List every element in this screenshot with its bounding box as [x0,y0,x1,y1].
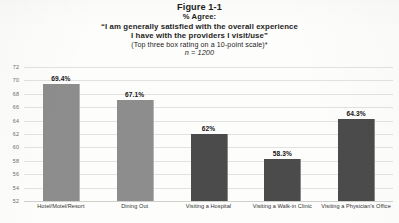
agree-subtitle: % Agree: [0,13,399,22]
bar [264,159,301,201]
category-label: Hotel/Motel/Resort [24,203,98,210]
bar [117,100,154,201]
y-tick-label: 52 [13,198,19,204]
bar [191,134,228,201]
gridline-52 [24,201,393,202]
y-tick-label: 66 [13,104,19,110]
y-tick-label: 64 [13,118,19,124]
bar-value-label: 58.3% [273,150,292,157]
bar-group: 69.4% [43,67,79,201]
quote-line-1: “I am generally satisfied with the overa… [0,22,399,31]
y-axis: 5254565860626466687072 [0,67,22,201]
y-tick-label: 70 [13,77,19,83]
category-label: Visiting a Walk-in Clinic [245,203,319,210]
y-tick-label: 58 [13,158,19,164]
figure-number: Figure 1-1 [0,2,399,13]
category-label: Visiting a Hospital [172,203,246,210]
bar-value-label: 69.4% [51,75,70,82]
quote-line-2: I have with the providers I visit/use” [0,31,399,40]
y-tick-label: 72 [13,64,19,70]
figure-container: Figure 1-1 % Agree: “I am generally sati… [0,0,399,223]
bar-value-label: 64.3% [346,110,365,117]
bar-group: 58.3% [264,67,300,201]
y-tick-label: 62 [13,131,19,137]
category-label: Dining Out [98,203,172,210]
chart-title-block: Figure 1-1 % Agree: “I am generally sati… [0,2,399,58]
bar-value-label: 62% [202,125,216,132]
y-tick-label: 56 [13,171,19,177]
bar-value-label: 67.1% [125,91,144,98]
y-tick-label: 54 [13,185,19,191]
y-tick-label: 68 [13,91,19,97]
bar-group: 64.3% [338,67,374,201]
bar-group: 67.1% [117,67,153,201]
bar [43,84,80,201]
y-tick-label: 60 [13,144,19,150]
bar [338,119,375,201]
bar-group: 62% [191,67,227,201]
category-label: Visiting a Physician's Office [319,203,393,210]
bar-series: 69.4%67.1%62%58.3%64.3% [24,67,393,201]
sample-size-label: n = 1200 [0,49,399,57]
x-axis-categories: Hotel/Motel/ResortDining OutVisiting a H… [24,203,393,217]
